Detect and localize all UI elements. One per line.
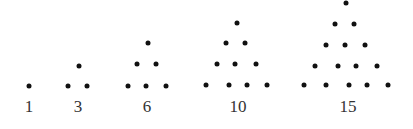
dot-icon	[344, 1, 349, 6]
dot-icon	[146, 41, 151, 46]
dot-icon	[245, 83, 250, 88]
dot-icon	[254, 62, 259, 67]
dot-icon	[243, 41, 248, 46]
dot-icon	[354, 64, 359, 69]
dot-icon	[302, 83, 307, 88]
dot-icon	[27, 84, 32, 89]
dot-icon	[324, 83, 329, 88]
dot-icon	[215, 62, 220, 67]
dot-icon	[324, 43, 329, 48]
dot-icon	[386, 83, 391, 88]
figure-label-3: 3	[74, 98, 83, 115]
dot-icon	[375, 64, 380, 69]
dot-icon	[154, 62, 159, 67]
dot-icon	[66, 84, 71, 89]
dot-icon	[233, 62, 238, 67]
dot-icon	[313, 64, 318, 69]
figure-label-1: 1	[25, 98, 34, 115]
dot-icon	[343, 43, 348, 48]
figure-label-15: 15	[340, 98, 357, 115]
dot-icon	[235, 21, 240, 26]
dot-icon	[363, 43, 368, 48]
dot-icon	[336, 64, 341, 69]
dot-icon	[333, 22, 338, 27]
dot-icon	[365, 83, 370, 88]
dot-icon	[352, 22, 357, 27]
dot-icon	[224, 41, 229, 46]
dot-icon	[347, 83, 352, 88]
dot-icon	[77, 64, 82, 69]
triangular-numbers-diagram: 1 3 6 10 15	[0, 0, 413, 129]
dot-icon	[135, 62, 140, 67]
dot-icon	[144, 84, 149, 89]
dot-icon	[204, 83, 209, 88]
dot-icon	[164, 84, 169, 89]
dot-icon	[85, 84, 90, 89]
dot-icon	[227, 83, 232, 88]
dot-icon	[265, 83, 270, 88]
dot-icon	[126, 84, 131, 89]
figure-label-10: 10	[230, 98, 247, 115]
figure-label-6: 6	[143, 98, 152, 115]
